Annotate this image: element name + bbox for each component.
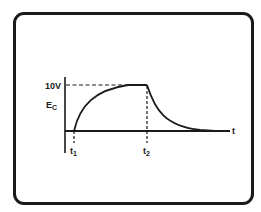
ec-axis-label: EC — [46, 100, 57, 111]
capacitor-curve-diagram: 10V EC t t1 t2 — [0, 0, 261, 212]
t-axis-label: t — [232, 126, 235, 136]
t2-label: t2 — [143, 146, 150, 157]
t1-label: t1 — [70, 146, 77, 157]
charging-curve — [74, 85, 147, 131]
discharging-curve — [147, 85, 215, 131]
level-10v-label: 10V — [45, 81, 61, 91]
